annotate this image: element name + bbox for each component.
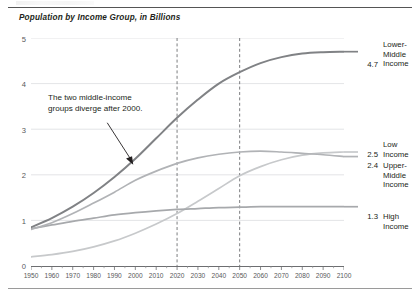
x-tick-label: 2100 [337,272,352,279]
y-tick-label-4: 4 [14,80,26,89]
x-tick-label: 2090 [316,272,331,279]
legend-value-high: 1.3 [362,212,378,221]
series-lines [31,52,344,257]
legend-label-lower-middle: Lower- Middle Income [383,40,420,69]
legend-value-upper-middle: 2.4 [362,161,378,170]
legend-label-line: Income [383,59,420,69]
x-tick-label: 1980 [86,272,101,279]
y-tick-label-2: 2 [14,171,26,180]
legend-label-line: Income [383,150,420,160]
annotation-line-2: groups diverge after 2000. [48,103,143,114]
legend-connector-lines [344,38,364,266]
legend-label-line: Upper- [383,161,420,171]
legend-label-line: Low [383,140,420,150]
legend-label-line: Middle [383,50,420,60]
x-tick-label: 2020 [170,272,185,279]
x-tick-label: 2000 [128,272,143,279]
legend-label-line: Lower- [383,40,420,50]
x-tick-label: 1990 [107,272,122,279]
x-tick-labels: 1950196019701980199020002010202020302040… [0,272,420,286]
bottom-divider-rule [8,288,412,289]
y-tick-label-3: 3 [14,126,26,135]
legend-value-low: 2.5 [362,150,378,159]
chart-canvas [31,38,344,266]
legend-label-line: Income [383,222,420,232]
legend-label-upper-middle: Upper- Middle Income [383,161,420,190]
x-tick-label: 1960 [45,272,60,279]
legend-label-line: High [383,212,420,222]
x-tick-label: 2040 [211,272,226,279]
x-tick-label: 1950 [24,272,39,279]
legend-label-high: High Income [383,212,420,231]
legend-label-line: Income [383,180,420,190]
chart-title: Population by Income Group, in Billions [19,13,180,22]
x-tick-label: 2060 [253,272,268,279]
legend-value-lower-middle: 4.7 [362,60,378,69]
x-tick-label: 2050 [232,272,247,279]
top-divider-rule [8,7,412,8]
plot-area [31,38,344,266]
y-tick-label-5: 5 [14,35,26,44]
legend-label-low: Low Income [383,140,420,159]
legend-label-line: Middle [383,171,420,181]
y-tick-label-1: 1 [14,217,26,226]
gridlines [31,38,344,220]
cropped-text-remnant [16,1,94,5]
annotation-line-1: The two middle-income [48,92,143,103]
x-tick-label: 2070 [274,272,289,279]
x-tick-label: 1970 [65,272,80,279]
x-tick-label: 2080 [295,272,310,279]
reference-lines [177,38,240,266]
y-tick-label-0: 0 [14,262,26,271]
x-tick-label: 2030 [191,272,206,279]
x-tick-label: 2010 [149,272,164,279]
annotation-text: The two middle-income groups diverge aft… [48,92,143,115]
chart-figure: Population by Income Group, in Billions … [0,0,420,295]
